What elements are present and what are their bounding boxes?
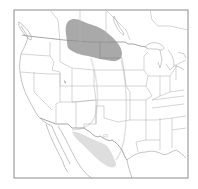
range-map: (2) xyxy=(0,0,198,189)
map-label: (2) xyxy=(103,133,109,138)
